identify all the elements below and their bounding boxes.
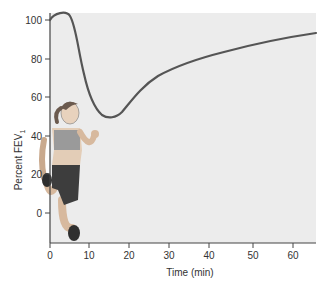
y-tick-80: 80 (31, 54, 43, 65)
y-tick-labels: 0 20 40 60 80 100 (25, 15, 42, 219)
y-tick-40: 40 (31, 131, 43, 142)
y-tick-100: 100 (25, 15, 42, 26)
x-tick-20: 20 (123, 250, 135, 261)
y-tick-60: 60 (31, 92, 43, 103)
fev1-chart: 0 20 40 60 80 100 0 10 20 30 40 50 60 Ti… (0, 0, 327, 283)
x-tick-30: 30 (163, 250, 175, 261)
y-tick-20: 20 (31, 169, 43, 180)
x-tick-50: 50 (247, 250, 259, 261)
x-tick-60: 60 (287, 250, 299, 261)
y-tick-0: 0 (36, 208, 42, 219)
y-axis-label: Percent FEV1 (13, 130, 26, 191)
x-tick-40: 40 (203, 250, 215, 261)
x-axis-label: Time (min) (166, 267, 213, 278)
x-ticks (50, 243, 293, 248)
plot-area (50, 13, 316, 243)
x-tick-labels: 0 10 20 30 40 50 60 (47, 250, 299, 261)
x-tick-0: 0 (47, 250, 53, 261)
x-tick-10: 10 (83, 250, 95, 261)
